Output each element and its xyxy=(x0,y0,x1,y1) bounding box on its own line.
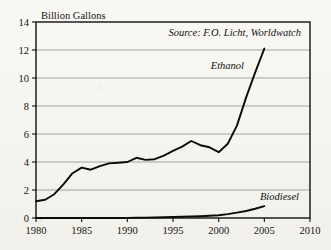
y-tick-label-14: 14 xyxy=(19,17,30,28)
x-tick-label-1995: 1995 xyxy=(163,225,184,236)
series-line-ethanol xyxy=(36,49,264,202)
y-tick-label-2: 2 xyxy=(24,185,29,196)
x-tick-label-1990: 1990 xyxy=(117,225,138,236)
series-group xyxy=(36,49,264,218)
y-axis: 02468101214 xyxy=(19,17,37,224)
x-tick-label-2005: 2005 xyxy=(254,225,275,236)
x-tick-label-1985: 1985 xyxy=(71,225,92,236)
y-tick-label-6: 6 xyxy=(24,129,29,140)
series-line-biodiesel xyxy=(36,206,264,218)
x-tick-label-2010: 2010 xyxy=(300,225,321,236)
y-tick-label-10: 10 xyxy=(19,73,30,84)
x-tick-label-1980: 1980 xyxy=(26,225,47,236)
y-tick-label-4: 4 xyxy=(24,157,30,168)
y-tick-label-8: 8 xyxy=(24,101,29,112)
y-tick-label-12: 12 xyxy=(19,45,30,56)
biofuel-production-line-chart: Billion Gallons 02468101214 198019851990… xyxy=(0,0,331,250)
x-axis: 1980198519901995200020052010 xyxy=(26,218,321,236)
gridlines xyxy=(36,50,310,190)
x-tick-label-2000: 2000 xyxy=(208,225,229,236)
y-tick-label-0: 0 xyxy=(24,213,29,224)
ethanol-series-label: Ethanol xyxy=(210,60,244,71)
chart-page: Billion Gallons 02468101214 198019851990… xyxy=(0,0,331,250)
y-axis-unit-label: Billion Gallons xyxy=(41,10,105,21)
source-annotation: Source: F.O. Licht, Worldwatch xyxy=(168,27,301,38)
plot-frame xyxy=(36,22,310,218)
biodiesel-series-label: Biodiesel xyxy=(260,191,299,202)
